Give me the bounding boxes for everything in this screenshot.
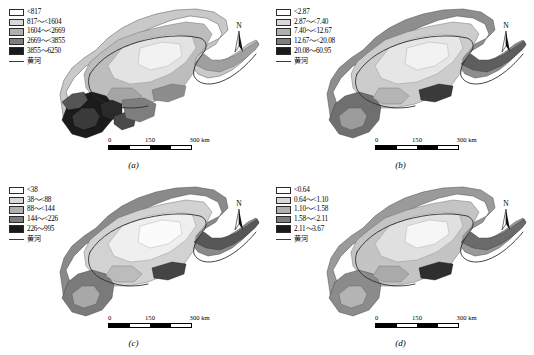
scale-tick: 300 km — [457, 136, 477, 143]
legend-swatch — [9, 206, 24, 213]
legend-label: 黄河 — [294, 236, 308, 243]
map-panel-c: <38 38～<88 88～<144 144～<226 226～995 黄河 — [0, 178, 267, 355]
legend-item: 1.10～<1.58 — [276, 205, 328, 215]
figure-sheet: <817 817～<1604 1604～<2669 2669～<3855 385… — [0, 0, 534, 355]
legend-swatch — [9, 197, 24, 204]
legend-label: <817 — [27, 9, 41, 16]
legend-swatch — [9, 9, 24, 16]
legend-item: 0.64～<1.10 — [276, 196, 328, 206]
legend-item: 1.58～<2.11 — [276, 215, 328, 225]
legend-item: <38 — [9, 186, 58, 196]
legend-item-river: 黄河 — [9, 235, 58, 245]
map-panel-b: <2.87 2.87～<7.40 7.40～<12.67 12.67～<20.0… — [267, 0, 534, 177]
legend-label: <0.64 — [294, 187, 310, 194]
north-arrow-icon — [234, 209, 244, 231]
north-arrow-d: N — [495, 200, 517, 235]
scale-tick: 300 km — [457, 314, 477, 321]
scale-tick: 0 — [108, 314, 111, 321]
river-line-icon — [9, 239, 24, 240]
north-label: N — [228, 200, 250, 208]
legend-swatch — [9, 19, 24, 26]
legend-item: 144～<226 — [9, 215, 58, 225]
legend-item: 226～995 — [9, 224, 58, 234]
scale-tick: 0 — [375, 136, 378, 143]
scale-tick: 150 — [412, 314, 422, 321]
legend-item: 2.11～3.67 — [276, 224, 328, 234]
scale-tick: 300 km — [190, 136, 210, 143]
legend-a: <817 817～<1604 1604～<2669 2669～<3855 385… — [9, 8, 65, 67]
legend-swatch — [276, 28, 291, 35]
north-arrow-c: N — [228, 200, 250, 235]
scale-tick: 150 — [145, 314, 155, 321]
north-arrow-icon — [234, 31, 244, 53]
legend-swatch — [9, 47, 24, 54]
panel-caption-b: (b) — [267, 160, 534, 170]
legend-item: 1604～<2669 — [9, 27, 65, 37]
legend-label: 2.11～3.67 — [294, 226, 324, 233]
legend-label: 1604～<2669 — [27, 28, 65, 35]
legend-label: 2669～<3855 — [27, 38, 65, 45]
legend-swatch — [276, 47, 291, 54]
scale-tick: 300 km — [190, 314, 210, 321]
legend-label: 88～<144 — [27, 206, 55, 213]
north-label: N — [228, 22, 250, 30]
legend-swatch — [276, 206, 291, 213]
legend-label: 20.08～60.95 — [294, 48, 331, 55]
legend-label: <38 — [27, 187, 38, 194]
legend-label: 2.87～<7.40 — [294, 19, 328, 26]
river-line-icon — [276, 239, 291, 240]
north-label: N — [495, 200, 517, 208]
map-panel-d: <0.64 0.64～<1.10 1.10～<1.58 1.58～<2.11 2… — [267, 178, 534, 355]
legend-item-river: 黄河 — [9, 57, 65, 67]
legend-item-river: 黄河 — [276, 235, 328, 245]
legend-label: 1.10～<1.58 — [294, 206, 328, 213]
panel-caption-d: (d) — [267, 338, 534, 348]
legend-item: <2.87 — [276, 8, 335, 18]
legend-label: <2.87 — [294, 9, 310, 16]
panel-caption-c: (c) — [0, 338, 267, 348]
legend-swatch — [276, 197, 291, 204]
legend-swatch — [276, 216, 291, 223]
legend-item: <0.64 — [276, 186, 328, 196]
legend-swatch — [9, 187, 24, 194]
scale-tick: 150 — [412, 136, 422, 143]
scale-bar-c: 0 150 300 km — [108, 314, 192, 328]
river-line-icon — [276, 61, 291, 62]
legend-swatch — [276, 19, 291, 26]
legend-item: 12.67～<20.08 — [276, 37, 335, 47]
scale-tick: 150 — [145, 136, 155, 143]
legend-swatch — [9, 216, 24, 223]
legend-swatch — [9, 38, 24, 45]
legend-swatch — [276, 187, 291, 194]
legend-item: 2669～<3855 — [9, 37, 65, 47]
river-line-icon — [9, 61, 24, 62]
legend-swatch — [9, 225, 24, 232]
north-arrow-icon — [501, 209, 511, 231]
legend-label: 226～995 — [27, 226, 54, 233]
legend-item: 7.40～<12.67 — [276, 27, 335, 37]
legend-item: 2.87～<7.40 — [276, 18, 335, 28]
legend-d: <0.64 0.64～<1.10 1.10～<1.58 1.58～<2.11 2… — [276, 186, 328, 245]
legend-label: 黄河 — [27, 58, 41, 65]
legend-label: 黄河 — [294, 58, 308, 65]
legend-b: <2.87 2.87～<7.40 7.40～<12.67 12.67～<20.0… — [276, 8, 335, 67]
legend-c: <38 38～<88 88～<144 144～<226 226～995 黄河 — [9, 186, 58, 245]
legend-item: 20.08～60.95 — [276, 46, 335, 56]
legend-label: 12.67～<20.08 — [294, 38, 335, 45]
legend-label: 38～<88 — [27, 197, 51, 204]
scale-bar-d: 0 150 300 km — [375, 314, 459, 328]
legend-label: 7.40～<12.67 — [294, 28, 332, 35]
legend-swatch — [276, 225, 291, 232]
legend-item: 817～<1604 — [9, 18, 65, 28]
legend-item: <817 — [9, 8, 65, 18]
legend-swatch — [276, 9, 291, 16]
legend-item-river: 黄河 — [276, 57, 335, 67]
scale-tick: 0 — [375, 314, 378, 321]
scale-bar-b: 0 150 300 km — [375, 136, 459, 150]
north-label: N — [495, 22, 517, 30]
panel-caption-a: (a) — [0, 160, 267, 170]
legend-label: 817～<1604 — [27, 19, 61, 26]
north-arrow-b: N — [495, 22, 517, 57]
legend-swatch — [9, 28, 24, 35]
scale-tick: 0 — [108, 136, 111, 143]
